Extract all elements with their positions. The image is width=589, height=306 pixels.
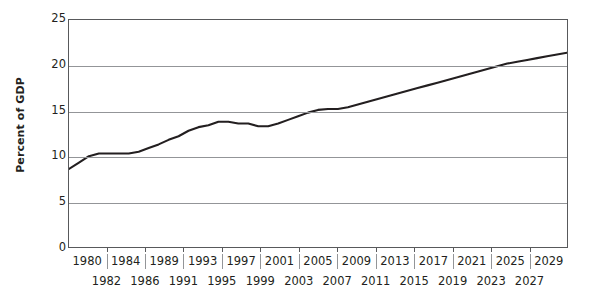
x-tick-label-1999: 1999 [246,276,275,288]
x-tick-label-2019: 2019 [438,276,467,288]
x-tick-5 [260,248,261,252]
x-tick-label-2015: 2015 [400,276,429,288]
plot-area [68,19,568,248]
x-tick-label-2025: 2025 [496,256,525,268]
gridline-10 [69,157,567,158]
x-tick-label-2011: 2011 [361,276,390,288]
x-tick-label-1993: 1993 [188,256,217,268]
x-tick-label-2029: 2029 [534,256,563,268]
x-tick-3 [183,248,184,252]
x-tick-6 [299,248,300,252]
x-tick-1 [107,248,108,252]
x-tick-7 [337,248,338,252]
x-tick-label-2005: 2005 [303,256,332,268]
x-tick-9 [414,248,415,252]
x-tick-label-2023: 2023 [476,276,505,288]
x-tick-label-1984: 1984 [111,256,140,268]
x-tick-label-2007: 2007 [323,276,352,288]
x-tick-label-2021: 2021 [457,256,486,268]
line-chart: Percent of GDP 2520151050 19801984198919… [0,0,589,306]
x-tick-label-2027: 2027 [515,276,544,288]
gridline-20 [69,66,567,67]
x-tick-10 [453,248,454,252]
gridline-5 [69,203,567,204]
x-tick-12 [530,248,531,252]
y-tick-label-10: 10 [22,150,66,162]
x-tick-label-1989: 1989 [150,256,179,268]
y-tick-label-25: 25 [22,13,66,25]
x-tick-2 [145,248,146,252]
x-tick-label-2009: 2009 [342,256,371,268]
x-tick-label-1995: 1995 [207,276,236,288]
x-tick-label-2003: 2003 [284,276,313,288]
y-tick-label-5: 5 [22,196,66,208]
series-line [69,20,567,247]
y-tick-label-15: 15 [22,105,66,117]
x-tick-label-1997: 1997 [226,256,255,268]
x-tick-11 [491,248,492,252]
x-axis-tick-labels-upper: 1980198419891993199720012005200920132017… [68,256,568,272]
gridline-15 [69,112,567,113]
x-tick-label-2001: 2001 [265,256,294,268]
x-tick-label-1980: 1980 [73,256,102,268]
x-tick-label-2017: 2017 [419,256,448,268]
x-tick-4 [222,248,223,252]
x-tick-label-1991: 1991 [169,276,198,288]
x-tick-8 [376,248,377,252]
x-tick-label-1982: 1982 [92,276,121,288]
x-axis-tick-labels-lower: 1982198619911995199920032007201120152019… [68,276,568,292]
x-tick-label-1986: 1986 [130,276,159,288]
y-tick-label-0: 0 [22,242,66,254]
x-tick-label-2013: 2013 [380,256,409,268]
y-axis-tick-labels: 2520151050 [14,0,66,306]
y-tick-label-20: 20 [22,59,66,71]
